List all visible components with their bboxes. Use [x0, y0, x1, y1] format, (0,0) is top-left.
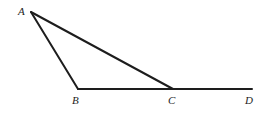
vertex-label-a: A [18, 6, 25, 17]
vertex-label-c: C [168, 95, 175, 106]
segment-ab [31, 12, 78, 89]
vertex-label-d: D [245, 95, 253, 106]
vertex-label-b: B [72, 95, 79, 106]
geometry-figure: A B C D [0, 0, 268, 113]
figure-canvas [0, 0, 268, 113]
segment-ac [31, 12, 173, 89]
